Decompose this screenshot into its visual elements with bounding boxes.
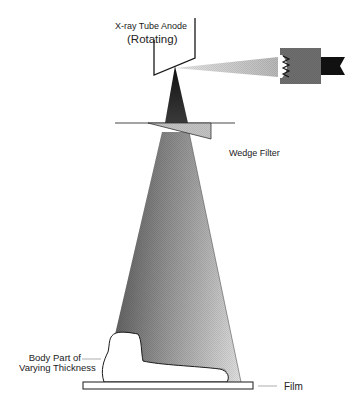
wedge-filter-label: Wedge Filter xyxy=(229,149,280,158)
anode-rotating-label: (Rotating) xyxy=(127,34,178,46)
film-label: Film xyxy=(284,382,303,392)
focal-cone xyxy=(165,66,188,123)
diagram-canvas xyxy=(0,0,354,395)
anode-label: X-ray Tube Anode xyxy=(115,22,187,31)
cathode-tab xyxy=(321,57,345,75)
cathode xyxy=(280,48,345,84)
body-part-label-line2: Varying Thickness xyxy=(19,363,81,373)
xray-wedge-filter-diagram: X-ray Tube Anode (Rotating) Wedge Filter… xyxy=(0,0,354,395)
film xyxy=(83,382,253,389)
body-part-label: Body Part of Varying Thickness xyxy=(19,353,81,373)
